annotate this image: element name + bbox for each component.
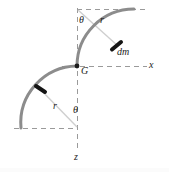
label-theta-bottom: θ bbox=[73, 105, 78, 115]
radius-line-lower bbox=[40, 89, 77, 127]
dashed-guide-lines bbox=[14, 8, 147, 150]
radius-leader-lines bbox=[40, 10, 118, 127]
label-centroid-G: G bbox=[81, 66, 88, 76]
label-z-axis: z bbox=[74, 152, 78, 162]
label-r-bottom: r bbox=[53, 101, 57, 111]
label-r-top: r bbox=[100, 15, 104, 25]
figure-bottom-edge bbox=[0, 168, 169, 172]
figure-drawing bbox=[0, 0, 169, 172]
figure-container: θ r dm G x r θ z bbox=[0, 0, 169, 172]
centroid-point-G bbox=[75, 64, 80, 69]
label-theta-top: θ bbox=[79, 15, 84, 25]
dm-marker-lower bbox=[36, 86, 45, 92]
label-x-axis: x bbox=[149, 60, 153, 70]
label-dm: dm bbox=[117, 47, 129, 57]
